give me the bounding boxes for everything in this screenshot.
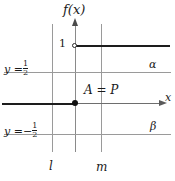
label-y-equals-negative-half: y =−12 [4,122,37,140]
reference-line-alpha [4,72,171,73]
math-graph-figure: f(x) 1 y =12 y =−12 α β A = P x l m [0,0,175,181]
x-axis-line [75,103,160,104]
fraction-numerator: 1 [23,60,28,68]
x-axis-label: x [165,92,171,103]
label-alpha: α [149,59,156,70]
label-line-m: m [96,161,107,173]
fraction-denominator: 2 [32,130,37,139]
open-endpoint-marker [72,43,77,48]
label-y-equals-negative-half-lhs: y = [4,125,23,138]
y-axis-label: f(x) [63,3,85,16]
minus-sign: − [23,125,32,138]
label-line-l: l [49,160,53,172]
function-branch-upper [76,45,170,47]
fraction-one-half: 12 [23,60,28,78]
label-y-equals-half: y =12 [4,60,28,78]
label-a-equals-p: A = P [84,84,118,96]
label-beta: β [150,121,156,132]
fraction-numerator: 1 [32,122,37,130]
function-branch-lower [2,103,75,105]
y-axis-arrow-icon [72,18,78,26]
y-tick-label-one: 1 [59,38,66,49]
vertical-line-l [52,24,53,152]
origin-point-marker [72,100,78,106]
label-y-equals-half-lhs: y = [4,63,23,76]
fraction-denominator: 2 [23,68,28,77]
fraction-one-half-negative: 12 [32,122,37,140]
